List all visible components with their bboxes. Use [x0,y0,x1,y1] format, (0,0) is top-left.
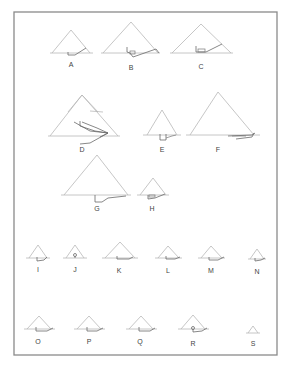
label-j: J [73,266,77,273]
label-h: H [149,205,154,212]
label-q: Q [137,338,143,346]
label-d: D [79,146,84,153]
label-b: B [129,64,134,71]
label-m: M [208,267,214,274]
figure-frame [14,12,277,355]
label-g: G [94,205,99,212]
label-r: R [190,340,195,347]
label-c: C [198,63,203,70]
label-o: O [35,338,41,345]
pyramid-sections-diagram: A B C D E [0,0,283,369]
label-k: K [117,267,122,274]
label-p: P [87,338,92,345]
label-l: L [166,267,170,274]
label-f: F [216,146,220,153]
label-e: E [160,146,165,153]
label-n: N [254,268,259,275]
label-i: I [37,266,39,273]
label-s: S [251,340,256,347]
label-a: A [69,61,74,68]
